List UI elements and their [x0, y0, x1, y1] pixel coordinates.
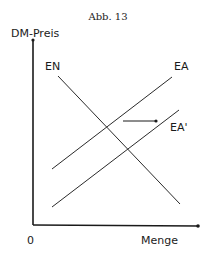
supply-demand-diagram: Abb. 13 DM-Preis Menge 0 EN EA EA': [0, 0, 211, 260]
origin-label: 0: [27, 234, 34, 247]
supply-curve-ea-prime: [52, 110, 179, 207]
curve-label-ea: EA: [174, 60, 189, 73]
curve-label-ea-prime: EA': [170, 121, 188, 134]
demand-curve-en: [58, 76, 180, 204]
x-axis-label: Menge: [141, 234, 178, 247]
x-axis-arrow-dot: [196, 224, 200, 228]
supply-curve-ea: [52, 77, 172, 169]
y-axis-label: DM-Preis: [11, 27, 59, 40]
x-axis: [33, 225, 198, 226]
curve-label-en: EN: [45, 60, 60, 73]
figure-caption: Abb. 13: [87, 11, 127, 22]
arrow-right-icon: [154, 119, 157, 122]
